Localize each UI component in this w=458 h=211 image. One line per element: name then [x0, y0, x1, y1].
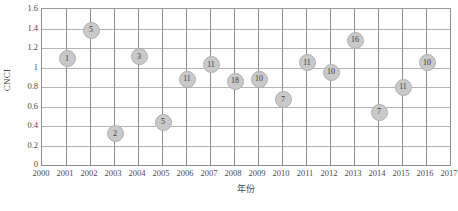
y-tick-label: 0.2 — [27, 140, 38, 150]
gridline-vertical — [378, 9, 379, 165]
data-point: 11 — [203, 56, 220, 73]
x-tick-label: 2016 — [417, 168, 434, 178]
x-tick-label: 2009 — [249, 168, 266, 178]
y-axis-title-label: CNCI — [2, 69, 12, 91]
x-tick-label: 2010 — [273, 168, 290, 178]
x-tick-label: 2002 — [81, 168, 98, 178]
gridline-horizontal — [42, 29, 450, 30]
data-point: 11 — [179, 71, 196, 88]
y-tick-label: 0.4 — [27, 120, 38, 130]
x-tick-label: 2012 — [321, 168, 338, 178]
plot-area: 1523511111810711101671110 — [41, 8, 451, 166]
y-tick-label: 0.6 — [27, 101, 38, 111]
y-axis-title: CNCI — [0, 0, 14, 160]
data-point: 7 — [275, 91, 292, 108]
x-tick-label: 2006 — [177, 168, 194, 178]
data-point: 1 — [59, 50, 76, 67]
cnci-scatter-chart: CNCI 00.20.40.60.811.21.41.6 15235111118… — [0, 0, 458, 211]
gridline-vertical — [282, 9, 283, 165]
data-point: 3 — [131, 48, 148, 65]
gridline-vertical — [330, 9, 331, 165]
x-tick-label: 2013 — [345, 168, 362, 178]
data-point: 7 — [371, 104, 388, 121]
data-point: 10 — [323, 64, 340, 81]
data-point: 11 — [395, 79, 412, 96]
y-tick-label: 1.6 — [27, 3, 38, 13]
data-point: 2 — [107, 125, 124, 142]
gridline-horizontal — [42, 48, 450, 49]
data-point: 5 — [155, 114, 172, 131]
data-point: 16 — [347, 32, 364, 49]
x-axis-title: 年份 — [41, 182, 451, 195]
x-axis-tick-labels: 2000200120022003200420052006200720082009… — [41, 168, 451, 182]
gridline-vertical — [426, 9, 427, 165]
gridline-vertical — [306, 9, 307, 165]
gridline-horizontal — [42, 146, 450, 147]
y-tick-label: 1.4 — [27, 23, 38, 33]
x-tick-label: 2015 — [393, 168, 410, 178]
data-point: 10 — [419, 54, 436, 71]
gridline-vertical — [66, 9, 67, 165]
x-tick-label: 2008 — [225, 168, 242, 178]
gridline-vertical — [210, 9, 211, 165]
data-point: 18 — [227, 73, 244, 90]
y-tick-label: 1 — [34, 62, 38, 72]
x-tick-label: 2001 — [57, 168, 74, 178]
x-tick-label: 2011 — [297, 168, 314, 178]
x-tick-label: 2007 — [201, 168, 218, 178]
gridline-vertical — [138, 9, 139, 165]
x-tick-label: 2000 — [33, 168, 50, 178]
x-tick-label: 2005 — [153, 168, 170, 178]
x-tick-label: 2004 — [129, 168, 146, 178]
data-point: 11 — [299, 54, 316, 71]
x-tick-label: 2003 — [105, 168, 122, 178]
gridline-vertical — [162, 9, 163, 165]
gridline-horizontal — [42, 87, 450, 88]
data-point: 10 — [251, 71, 268, 88]
gridline-horizontal — [42, 107, 450, 108]
x-tick-label: 2014 — [369, 168, 386, 178]
gridline-horizontal — [42, 68, 450, 69]
x-tick-label: 2017 — [441, 168, 458, 178]
gridline-horizontal — [42, 126, 450, 127]
y-tick-label: 1.2 — [27, 42, 38, 52]
data-point: 5 — [83, 22, 100, 39]
y-axis-tick-labels: 00.20.40.60.811.21.41.6 — [14, 8, 40, 166]
y-tick-label: 0.8 — [27, 81, 38, 91]
